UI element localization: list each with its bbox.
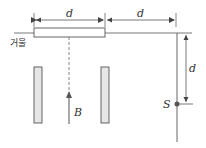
dim-label-top-right: d [137, 7, 144, 20]
arrow-up-icon [66, 91, 72, 98]
mirror [34, 28, 105, 37]
source-point [175, 102, 180, 107]
mirror-label: 거울 [10, 38, 26, 48]
beam-label: B [73, 106, 82, 119]
dim-label-top-left: d [66, 7, 73, 20]
diagram-canvas: d d 거울 d S B [0, 0, 206, 148]
slit-left [34, 67, 42, 123]
top-dimension [34, 13, 176, 27]
slit-right [101, 67, 109, 123]
source-label: S [163, 98, 171, 111]
dim-label-vertical: d [189, 62, 196, 75]
